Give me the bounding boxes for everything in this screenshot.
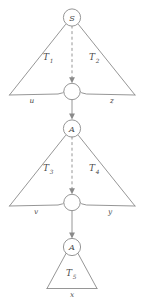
subtree-T1-subscript: 1	[50, 58, 54, 64]
leaf-y-label: y	[107, 207, 113, 216]
connector-junction2-to-lowA	[69, 211, 75, 239]
subtree-T5-right-edge	[78, 254, 97, 289]
subtree-T3-left-edge	[10, 136, 66, 207]
leaf-v-label: v	[34, 207, 39, 216]
level-1-group: S T 1 T 2 u z	[10, 9, 136, 105]
node-junction2-circle	[64, 194, 80, 210]
leaf-z-label: z	[109, 96, 114, 105]
node-lowA-label: A	[68, 242, 75, 252]
leaf-u-label: u	[30, 96, 35, 105]
subtree-T3-baseline	[10, 202, 66, 207]
subtree-T2-right-edge	[79, 25, 136, 96]
leaf-x-label: x	[70, 290, 75, 299]
arrowhead-midA-to-junction	[69, 188, 75, 194]
subtree-T1-baseline	[10, 91, 66, 96]
subtree-T5-left-edge	[47, 254, 66, 289]
node-root-label: S	[69, 13, 75, 23]
level-2-group: A T 3 T 4 v y	[10, 120, 136, 216]
subtree-T4-subscript: 4	[95, 169, 100, 175]
arrowhead-junction2-to-lowA	[69, 233, 75, 239]
subtree-T1-left-edge	[10, 25, 66, 96]
subtree-T2-subscript: 2	[95, 58, 100, 64]
arrowhead-root-to-junction	[69, 77, 75, 83]
arrowhead-junction1-to-midA	[69, 114, 75, 120]
subtree-T2-baseline	[79, 91, 135, 96]
subtree-T5-subscript: 5	[73, 274, 77, 280]
subtree-T3-subscript: 3	[50, 169, 54, 175]
node-midA-label: A	[68, 124, 75, 134]
diagram-canvas: S T 1 T 2 u z A	[0, 0, 144, 305]
subtree-T4-right-edge	[79, 136, 136, 207]
node-junction1-circle	[64, 83, 80, 99]
level-3-group: A T 5 x	[47, 238, 97, 299]
connector-junction1-to-midA	[69, 100, 75, 120]
subtree-T4-baseline	[79, 202, 135, 207]
derivation-tree-figure: S T 1 T 2 u z A	[0, 0, 144, 305]
